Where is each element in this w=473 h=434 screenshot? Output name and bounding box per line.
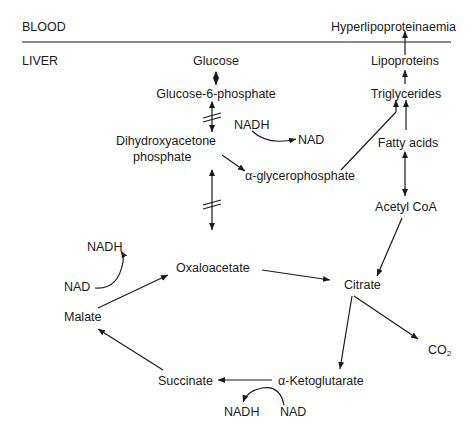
node-alpha-ketoglutarate: α-Ketoglutarate [278, 374, 364, 388]
co2-subscript: 2 [447, 349, 451, 358]
node-alpha-glycerophosphate: α-glycerophosphate [245, 169, 355, 183]
cofactor-nadh-left: NADH [87, 240, 122, 254]
node-hyperlipoproteinaemia: Hyperlipoproteinaemia [331, 20, 456, 34]
node-fatty-acids: Fatty acids [378, 136, 438, 150]
node-glucose: Glucose [193, 54, 239, 68]
node-co2: CO2 [428, 343, 451, 361]
cofactor-nad-left: NAD [64, 280, 90, 294]
region-label-blood: BLOOD [22, 20, 66, 34]
cofactor-nad-bottom: NAD [280, 405, 306, 419]
cofactor-nadh-top: NADH [234, 118, 269, 132]
region-label-liver: LIVER [22, 54, 58, 68]
node-triglycerides: Triglycerides [371, 87, 441, 101]
node-dihydroxyacetone-phosphate: phosphate [133, 150, 191, 164]
co2-text: CO [428, 343, 447, 357]
node-lipoproteins: Lipoproteins [371, 54, 439, 68]
metabolic-pathway-diagram: BLOOD LIVER Hyperlipoproteinaemia Glucos… [0, 0, 473, 434]
node-acetyl-coa: Acetyl CoA [375, 200, 437, 214]
cofactor-nadh-bottom: NADH [224, 405, 259, 419]
node-succinate: Succinate [158, 374, 213, 388]
cofactor-nad-top: NAD [298, 133, 324, 147]
node-citrate: Citrate [344, 278, 381, 292]
node-malate: Malate [64, 310, 102, 324]
node-dihydroxyacetone: Dihydroxyacetone [116, 134, 216, 148]
node-glucose-6-phosphate: Glucose-6-phosphate [156, 87, 276, 101]
node-oxaloacetate: Oxaloacetate [176, 261, 250, 275]
